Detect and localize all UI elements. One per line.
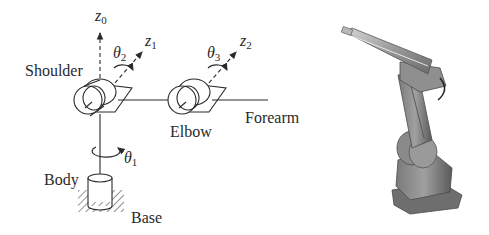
industrial-robot-photo <box>0 0 489 235</box>
robot-arm-figure: z0 θ2 z1 Shoulder θ3 z2 Forearm Elbow θ1… <box>0 0 489 235</box>
